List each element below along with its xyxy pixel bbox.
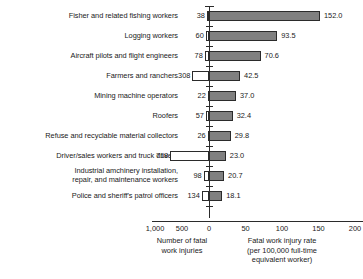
fatal-injury-count-value: 57 <box>196 112 204 120</box>
chart-row: Industrial amchinery installation, repai… <box>0 166 363 186</box>
category-label: Refuse and recyclable material collector… <box>45 132 178 141</box>
zero-axis-tick <box>206 86 213 87</box>
fatal-injury-count-value: 718 <box>156 152 168 160</box>
category-label: Logging workers <box>125 32 178 41</box>
fatal-injury-rate-bar <box>209 51 261 61</box>
zero-axis-tick <box>206 166 213 167</box>
x-tick-label: 150 <box>312 224 324 234</box>
zero-axis-tick <box>206 106 213 107</box>
fatal-injury-count-value: 98 <box>193 172 201 180</box>
fatal-injury-count-value: 134 <box>187 192 199 200</box>
fatal-injury-count-value: 26 <box>197 132 205 140</box>
chart-row: Roofers5732.4 <box>0 106 363 126</box>
category-label: Mining machine operators <box>94 92 178 101</box>
chart-row: Driver/sales workers and truck drivers71… <box>0 146 363 166</box>
zero-axis-tick <box>206 46 213 47</box>
zero-axis-tick <box>206 206 213 207</box>
fatal-injury-rate-bar <box>209 191 222 201</box>
fatal-injury-rate-value: 93.5 <box>281 32 295 40</box>
fatal-injury-rate-bar <box>209 31 277 41</box>
fatal-injury-count-value: 22 <box>198 92 206 100</box>
fatal-injury-rate-value: 23.0 <box>230 152 244 160</box>
zero-axis-tick <box>206 26 213 27</box>
chart-row: Mining machine operators2237.0 <box>0 86 363 106</box>
fatal-injury-rate-value: 18.1 <box>226 192 240 200</box>
zero-axis-tick <box>206 126 213 127</box>
zero-axis-tick <box>206 186 213 187</box>
fatal-injury-count-bar <box>192 71 209 81</box>
x-tick-label: 500 <box>176 224 188 234</box>
fatal-injury-count-value: 308 <box>178 72 190 80</box>
fatal-injury-rate-bar <box>209 131 231 141</box>
category-label: Roofers <box>152 112 178 121</box>
fatal-injury-count-value: 38 <box>197 12 205 20</box>
fatal-injury-rate-bar <box>209 151 226 161</box>
fatal-injury-rate-value: 70.6 <box>265 52 279 60</box>
chart-row: Police and sheriff's patrol officers1341… <box>0 186 363 206</box>
x-tick-label: 0 <box>207 224 211 234</box>
x-axis-baseline <box>152 221 363 222</box>
x-tick-label: 1,000 <box>146 224 165 234</box>
fatal-injury-rate-bar <box>209 91 236 101</box>
x-axis-tick-labels: 1,000500050100150200 <box>0 224 363 236</box>
chart-row: Logging workers6093.5 <box>0 26 363 46</box>
x-tick-label: 200 <box>349 224 361 234</box>
x-tick-label: 50 <box>241 224 249 234</box>
category-label: Industrial amchinery installation, repai… <box>72 167 178 184</box>
fatal-injury-rate-value: 37.0 <box>240 92 254 100</box>
chart-row: Fisher and related fishing workers38152.… <box>0 6 363 26</box>
fatal-injury-rate-value: 42.5 <box>244 72 258 80</box>
fatal-work-injury-chart: Fisher and related fishing workers38152.… <box>0 0 363 279</box>
fatal-injury-count-value: 60 <box>196 32 204 40</box>
fatal-injury-rate-value: 20.7 <box>228 172 242 180</box>
fatal-injury-rate-bar <box>209 71 240 81</box>
fatal-injury-count-value: 78 <box>195 52 203 60</box>
chart-row: Refuse and recyclable material collector… <box>0 126 363 146</box>
category-label: Police and sheriff's patrol officers <box>72 192 178 201</box>
chart-row: Aircraft pilots and flight engineers7870… <box>0 46 363 66</box>
fatal-injury-rate-bar <box>209 11 320 21</box>
right-axis-caption: Fatal work injury rate (per 100,000 full… <box>247 236 317 265</box>
category-label: Farmers and ranchers <box>106 72 178 81</box>
zero-axis-tick <box>206 146 213 147</box>
fatal-injury-count-bar <box>170 151 209 161</box>
zero-axis-tick <box>206 66 213 67</box>
fatal-injury-rate-bar <box>209 171 224 181</box>
chart-row: Farmers and ranchers30842.5 <box>0 66 363 86</box>
fatal-injury-rate-value: 152.0 <box>324 12 343 20</box>
category-label: Aircraft pilots and flight engineers <box>71 52 178 61</box>
fatal-injury-rate-value: 29.8 <box>235 132 249 140</box>
left-axis-caption: Number of fatal work injuries <box>157 236 208 255</box>
fatal-injury-rate-value: 32.4 <box>237 112 251 120</box>
category-label: Fisher and related fishing workers <box>69 12 178 21</box>
chart-rows: Fisher and related fishing workers38152.… <box>0 6 363 206</box>
x-tick-label: 100 <box>276 224 288 234</box>
zero-axis-tick <box>206 6 213 7</box>
fatal-injury-rate-bar <box>209 111 233 121</box>
